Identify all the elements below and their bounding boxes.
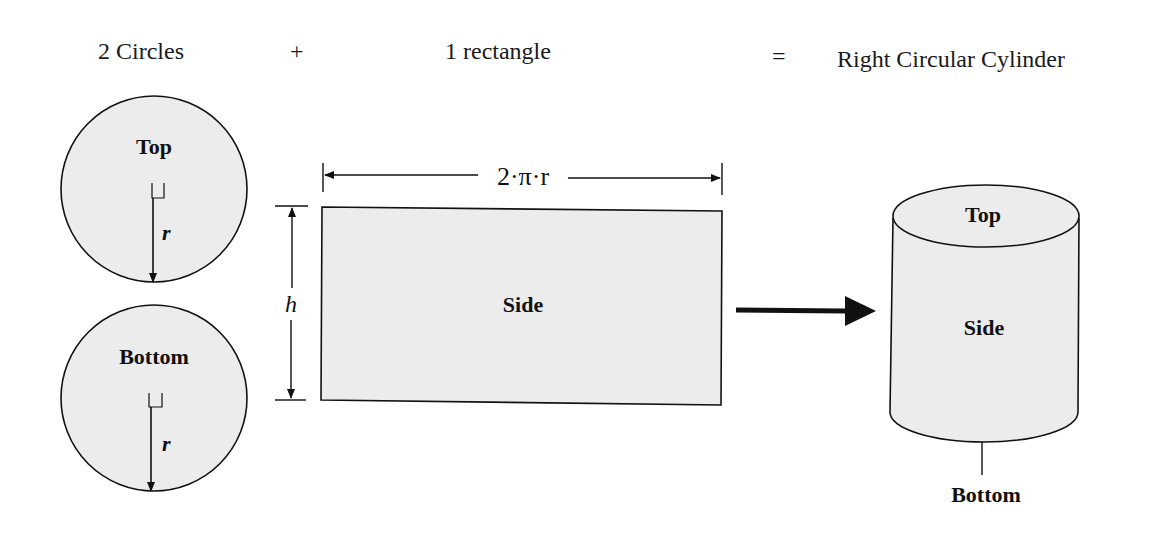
- arrow-head-icon: [845, 296, 876, 326]
- bottom-circle: Bottom r: [61, 305, 247, 491]
- top-circle-label: Top: [136, 134, 172, 159]
- bottom-radius-label: r: [162, 431, 171, 456]
- cylinder-top-label: Top: [965, 202, 1001, 227]
- top-circle: Top r: [61, 96, 247, 282]
- height-dimension: h: [275, 206, 308, 400]
- bottom-circle-label: Bottom: [119, 344, 189, 369]
- top-radius-label: r: [162, 220, 171, 245]
- equation-header: 2 Circles + 1 rectangle = Right Circular…: [98, 38, 1065, 72]
- equals-sign: =: [772, 43, 786, 69]
- term-circles: 2 Circles: [98, 38, 184, 64]
- width-label: 2·π·r: [497, 162, 549, 191]
- side-label: Side: [503, 292, 544, 317]
- cylinder-side-label: Side: [964, 315, 1005, 340]
- cylinder-bottom-label: Bottom: [951, 482, 1021, 507]
- term-cylinder: Right Circular Cylinder: [837, 46, 1065, 72]
- plus-sign: +: [290, 38, 304, 64]
- cylinder-surface-area-diagram: 2 Circles + 1 rectangle = Right Circular…: [0, 0, 1163, 533]
- term-rectangle: 1 rectangle: [445, 38, 551, 64]
- cylinder: Top Side Bottom: [890, 185, 1079, 507]
- width-dimension: 2·π·r: [323, 162, 722, 195]
- transform-arrow: [736, 296, 876, 326]
- height-label: h: [285, 291, 297, 317]
- side-rectangle: Side: [321, 207, 722, 405]
